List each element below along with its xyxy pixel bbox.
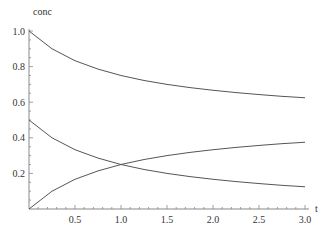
- y-tick-label: 0.4: [13, 132, 26, 143]
- chart: 0.51.01.52.02.53.00.20.40.60.81.0 conc t: [0, 0, 331, 233]
- y-tick-label: 1.0: [13, 26, 26, 37]
- axes: 0.51.01.52.02.53.00.20.40.60.81.0: [13, 26, 312, 226]
- x-tick-label: 0.5: [69, 214, 82, 225]
- x-axis-label: t: [315, 203, 318, 214]
- series-line-2: [29, 142, 305, 209]
- x-tick-label: 2.5: [253, 214, 266, 225]
- y-tick-label: 0.8: [13, 61, 26, 72]
- series-lines: [29, 31, 305, 209]
- x-tick-label: 2.0: [207, 214, 220, 225]
- y-tick-label: 0.6: [13, 97, 26, 108]
- y-tick-label: 0.2: [13, 168, 26, 179]
- x-tick-label: 3.0: [299, 214, 312, 225]
- x-tick-label: 1.0: [115, 214, 128, 225]
- series-line-1: [29, 120, 305, 187]
- y-axis-label: conc: [33, 6, 52, 17]
- x-tick-label: 1.5: [161, 214, 174, 225]
- series-line-0: [29, 31, 305, 98]
